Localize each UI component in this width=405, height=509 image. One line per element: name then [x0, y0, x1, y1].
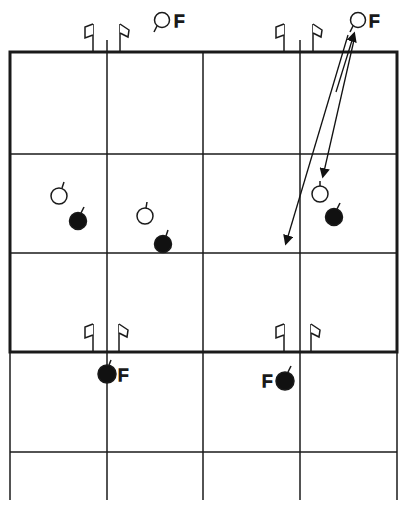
- flag-icon: [311, 324, 320, 352]
- player-label-top-mid: F: [174, 12, 184, 31]
- open-player-top-right: [350, 13, 366, 33]
- open-player-center-left: [137, 202, 153, 224]
- player-label-bottom-right: F: [262, 372, 272, 391]
- open-player-left: [51, 182, 67, 204]
- flag-icon: [120, 24, 129, 52]
- arrow-pass-down: [323, 40, 354, 176]
- filled-player-left: [70, 207, 87, 230]
- flag-icon: [85, 324, 93, 352]
- filled-player-bottom-right: [276, 366, 294, 390]
- flag-icon: [313, 24, 322, 52]
- flag-icon: [85, 24, 93, 52]
- flag-icon: [276, 324, 284, 352]
- filled-player-right: [326, 203, 343, 226]
- flag-icon: [276, 24, 284, 52]
- formation-diagram: F F F F: [0, 0, 405, 509]
- arrow-pass-up: [336, 34, 354, 92]
- filled-player-center-left: [155, 230, 172, 253]
- flag-icon: [119, 324, 128, 352]
- player-label-top-right: F: [369, 12, 379, 31]
- open-player-top-mid: [154, 13, 170, 33]
- open-player-right: [312, 181, 328, 202]
- player-label-bottom-left: F: [118, 366, 128, 385]
